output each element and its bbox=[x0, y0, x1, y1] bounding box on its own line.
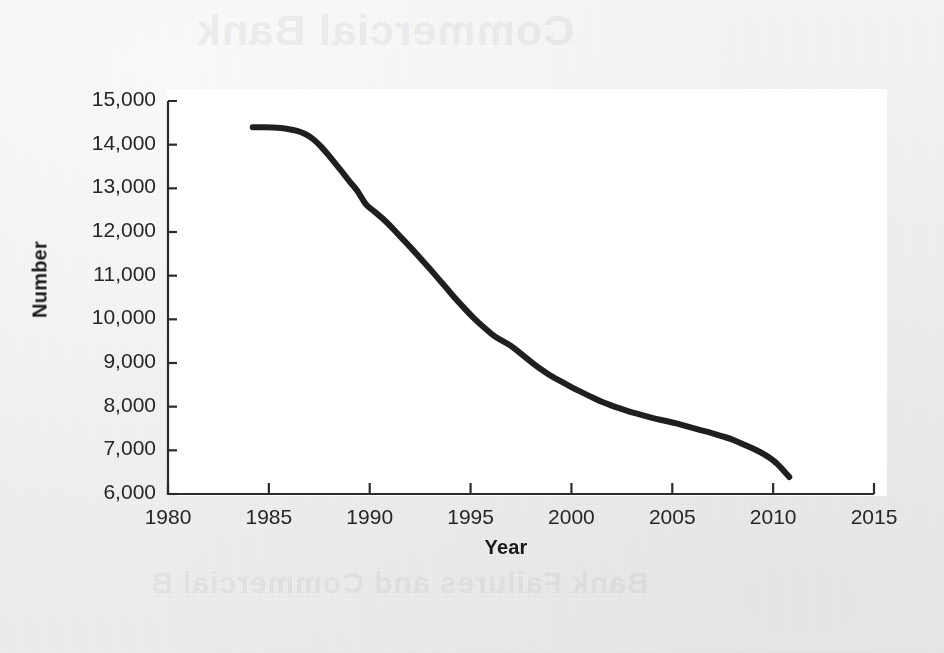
y-axis-tick-6000: 6,000 bbox=[60, 480, 156, 504]
y-axis-tick-13000: 13,000 bbox=[60, 174, 156, 198]
x-axis-tick-2000: 2000 bbox=[526, 505, 616, 529]
y-axis-tick-7000: 7,000 bbox=[60, 436, 156, 460]
x-axis-tick-2010: 2010 bbox=[728, 505, 818, 529]
y-axis-tick-8000: 8,000 bbox=[60, 393, 156, 417]
x-axis-tick-2005: 2005 bbox=[627, 505, 717, 529]
x-axis-tick-1980: 1980 bbox=[123, 505, 213, 529]
x-axis-tick-1995: 1995 bbox=[426, 505, 516, 529]
x-axis-tick-1985: 1985 bbox=[224, 505, 314, 529]
x-axis-title: Year bbox=[456, 536, 556, 559]
y-axis-tick-14000: 14,000 bbox=[60, 131, 156, 155]
y-axis-tick-12000: 12,000 bbox=[60, 218, 156, 242]
line-chart-figure: 6,0007,0008,0009,00010,00011,00012,00013… bbox=[0, 0, 944, 653]
y-axis-tick-9000: 9,000 bbox=[60, 349, 156, 373]
y-axis-tick-10000: 10,000 bbox=[60, 305, 156, 329]
y-axis-tick-15000: 15,000 bbox=[60, 87, 156, 111]
y-axis-title: Number bbox=[29, 220, 52, 340]
x-axis-tick-1990: 1990 bbox=[325, 505, 415, 529]
y-axis-tick-11000: 11,000 bbox=[60, 262, 156, 286]
x-axis-tick-2015: 2015 bbox=[829, 505, 919, 529]
